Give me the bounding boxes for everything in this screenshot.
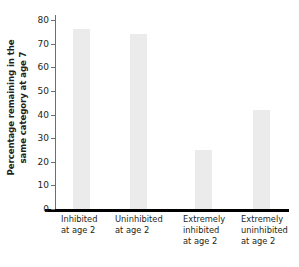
y-tick-label: 80 (38, 15, 49, 25)
x-axis-label-0: Inhibitedat age 2 (61, 214, 97, 236)
y-tick-label: 0 (43, 204, 49, 214)
x-axis-label-2: Extremelyinhibitedat age 2 (183, 214, 225, 247)
y-tick-mark (51, 20, 55, 21)
bar-chart-figure: Percentage remaining in the same categor… (0, 0, 299, 267)
y-tick-label: 60 (38, 62, 49, 72)
y-tick-label: 20 (38, 157, 49, 167)
x-axis-label-line: Extremely (183, 214, 225, 225)
y-tick-mark (51, 44, 55, 45)
y-tick-mark (51, 115, 55, 116)
y-tick-label: 50 (38, 86, 49, 96)
bar-2 (195, 150, 212, 209)
x-axis-label-line: at age 2 (115, 225, 163, 236)
bar-3 (253, 110, 270, 209)
y-tick-label: 70 (38, 39, 49, 49)
y-tick-mark (51, 138, 55, 139)
bar-0 (73, 29, 90, 209)
x-axis-label-line: inhibited (183, 225, 225, 236)
x-axis-label-line: at age 2 (61, 225, 97, 236)
y-tick-label: 10 (38, 180, 49, 190)
x-axis-label-line: at age 2 (241, 236, 288, 247)
y-tick-label: 30 (38, 133, 49, 143)
y-axis-title-line-2: same category at age 7 (18, 40, 30, 176)
y-tick-mark (51, 67, 55, 68)
x-axis-label-line: Extremely (241, 214, 288, 225)
plot-area: 01020304050607080 (55, 15, 289, 210)
y-tick-mark (51, 185, 55, 186)
y-axis-line (55, 15, 56, 210)
y-axis-title: Percentage remaining in the same categor… (0, 0, 36, 215)
bar-1 (130, 34, 147, 209)
x-axis-baseline (45, 209, 289, 212)
y-axis-title-line-1: Percentage remaining in the (7, 40, 19, 176)
x-axis-label-line: Inhibited (61, 214, 97, 225)
y-tick-label: 40 (38, 110, 49, 120)
x-axis-label-line: at age 2 (183, 236, 225, 247)
y-tick-mark (51, 91, 55, 92)
x-axis-label-line: Uninhibited (115, 214, 163, 225)
x-axis-label-line: uninhibited (241, 225, 288, 236)
x-axis-label-1: Uninhibitedat age 2 (115, 214, 163, 236)
x-axis-label-3: Extremelyuninhibitedat age 2 (241, 214, 288, 247)
x-axis-labels: Inhibitedat age 2Uninhibitedat age 2Extr… (55, 214, 289, 266)
y-tick-mark (51, 162, 55, 163)
y-tick-mark (51, 209, 55, 210)
